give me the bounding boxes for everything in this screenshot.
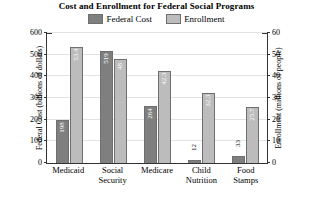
legend-entry-enrollment: Enrollment	[166, 14, 225, 24]
legend-swatch-enrollment	[166, 14, 181, 24]
bar-enrollment[interactable]: 53.4	[70, 47, 83, 163]
tick-mark-right	[267, 97, 270, 98]
legend-label-enrollment: Enrollment	[184, 15, 225, 24]
tick-mark-right	[267, 119, 270, 120]
category-label-0: Medicaid	[46, 166, 90, 185]
chart-legend: Federal Cost Enrollment	[0, 14, 313, 24]
bar-value-label: 32.3	[205, 94, 212, 106]
tick-mark-right	[267, 32, 270, 33]
tick-mark-right	[267, 75, 270, 76]
bar-federal-cost[interactable]: 33	[232, 156, 245, 163]
chart-title: Cost and Enrollment for Federal Social P…	[0, 1, 313, 11]
plot-area: 0100200300400500600 0102030405060 Federa…	[46, 33, 268, 164]
category-label-line2: Nutrition	[179, 176, 223, 186]
bar-enrollment[interactable]: 48	[114, 59, 127, 163]
category-label-2: Medicare	[135, 166, 179, 185]
bar-enrollment[interactable]: 42.3	[158, 71, 171, 163]
y-axis-right-title: Enrollment (millions of people)	[274, 13, 283, 183]
tick-mark-right	[267, 54, 270, 55]
bar-value-label: 48	[117, 63, 124, 70]
y-axis-left-title: Federal Cost (billions of dollars)	[35, 18, 44, 178]
bar-value-label: 53.4	[73, 49, 80, 61]
bar-value-label: 33	[235, 140, 242, 147]
bar-group: 1232.3	[188, 33, 215, 163]
tick-mark-right	[267, 140, 270, 141]
bar-value-label: 198	[59, 122, 66, 133]
category-label-line2: Stamps	[224, 176, 268, 186]
legend-swatch-federal-cost	[88, 14, 103, 24]
category-label-4: FoodStamps	[224, 166, 268, 185]
bar-group: 51948	[100, 33, 127, 163]
bar-value-label: 25.7	[249, 109, 256, 121]
bar-federal-cost[interactable]: 519	[100, 51, 113, 163]
bar-federal-cost[interactable]: 12	[188, 160, 201, 163]
bar-value-label: 42.3	[161, 73, 168, 85]
bar-federal-cost[interactable]: 264	[144, 106, 157, 163]
legend-label-federal-cost: Federal Cost	[106, 15, 152, 24]
bar-group: 19853.4	[56, 33, 83, 163]
tick-mark-right	[267, 162, 270, 163]
category-label-line1: Medicare	[135, 166, 179, 176]
bar-enrollment[interactable]: 25.7	[246, 107, 259, 163]
category-label-line2: Security	[91, 176, 135, 186]
bar-group: 26442.3	[144, 33, 171, 163]
chart-container: Cost and Enrollment for Federal Social P…	[0, 0, 313, 200]
bar-group: 3325.7	[232, 33, 259, 163]
category-label-1: SocialSecurity	[91, 166, 135, 185]
category-label-3: ChildNutrition	[179, 166, 223, 185]
bar-value-label: 264	[147, 108, 154, 119]
bar-value-label: 519	[103, 53, 110, 64]
x-axis-categories: MedicaidSocialSecurityMedicareChildNutri…	[46, 166, 268, 185]
bar-value-label: 12	[191, 144, 198, 151]
bars-layer: 19853.45194826442.31232.33325.7	[47, 33, 267, 163]
legend-entry-federal-cost: Federal Cost	[88, 14, 152, 24]
category-label-line1: Medicaid	[46, 166, 90, 176]
bar-enrollment[interactable]: 32.3	[202, 93, 215, 163]
bar-federal-cost[interactable]: 198	[56, 120, 69, 163]
